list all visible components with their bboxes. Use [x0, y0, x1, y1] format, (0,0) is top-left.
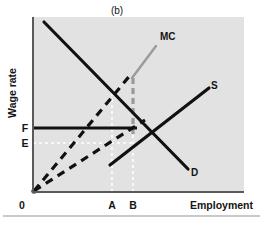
economics-diagram: (b) Wage rate Employment 0 A B F E MC S …: [0, 0, 263, 225]
origin-label: 0: [19, 199, 25, 211]
y-axis-label: Wage rate: [6, 68, 18, 118]
demand-curve-label: D: [191, 167, 198, 178]
diagram-canvas: (b) Wage rate Employment 0 A B F E MC S …: [0, 0, 263, 225]
y-tick-label-f: F: [22, 122, 29, 134]
x-tick-label-a: A: [108, 199, 116, 211]
x-tick-label-b: B: [129, 199, 137, 211]
supply-curve-label: S: [211, 80, 218, 91]
panel-label: (b): [111, 5, 123, 16]
y-tick-label-e: E: [21, 137, 28, 149]
x-axis-label: Employment: [190, 199, 254, 211]
mc-curve-label: MC: [160, 31, 176, 42]
